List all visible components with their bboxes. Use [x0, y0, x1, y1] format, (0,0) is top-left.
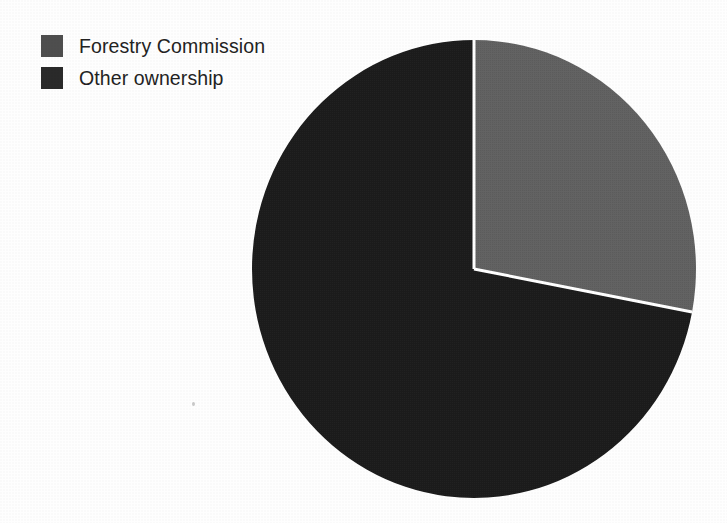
pie-slice-forestry-commission[interactable]: [474, 40, 696, 312]
legend-label-forestry-commission: Forestry Commission: [79, 35, 265, 57]
pie-chart-figure: Forestry Commission Other ownership: [0, 0, 727, 523]
pie-chart-svg: [250, 38, 698, 500]
forestry-commission-swatch-icon: [41, 35, 63, 57]
pie-chart-plot-area: [250, 38, 698, 500]
scan-speck: [192, 402, 195, 406]
legend-label-other-ownership: Other ownership: [79, 67, 224, 89]
other-ownership-swatch-icon: [41, 67, 63, 89]
